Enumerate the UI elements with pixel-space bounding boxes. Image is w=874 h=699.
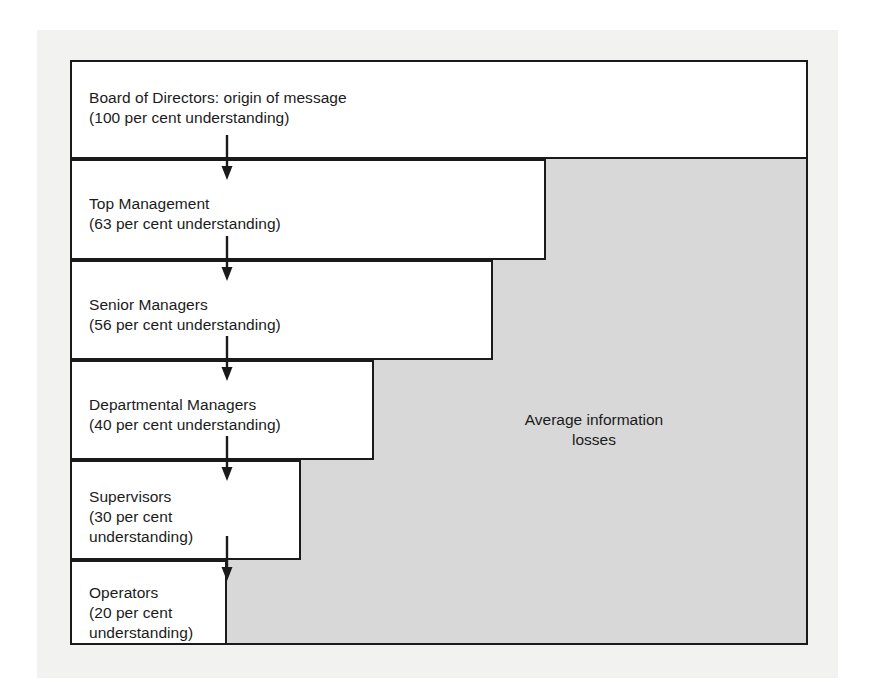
level-label-operators: Operators (20 per cent understanding) [89, 583, 193, 643]
level-box-departmental-managers[interactable]: Departmental Managers (40 per cent under… [70, 360, 374, 460]
level-box-supervisors[interactable]: Supervisors (30 per cent understanding) [70, 460, 301, 560]
loss-region-caption: Average information losses [470, 410, 718, 450]
level-label-top-management: Top Management (63 per cent understandin… [89, 194, 281, 234]
figure-frame: Average information losses Board of Dire… [70, 60, 808, 645]
level-label-senior-managers: Senior Managers (56 per cent understandi… [89, 295, 281, 335]
level-label-supervisors: Supervisors (30 per cent understanding) [89, 487, 193, 547]
level-box-operators[interactable]: Operators (20 per cent understanding) [70, 560, 227, 645]
level-box-top-management[interactable]: Top Management (63 per cent understandin… [70, 159, 546, 260]
level-label-departmental-managers: Departmental Managers (40 per cent under… [89, 395, 281, 435]
level-label-board-of-directors: Board of Directors: origin of message (1… [89, 88, 347, 128]
level-box-board-of-directors[interactable]: Board of Directors: origin of message (1… [70, 60, 808, 159]
level-box-senior-managers[interactable]: Senior Managers (56 per cent understandi… [70, 260, 493, 360]
